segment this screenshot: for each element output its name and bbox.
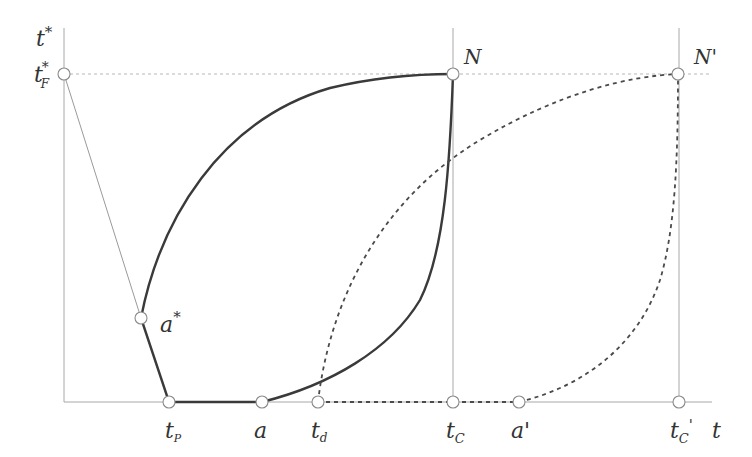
point-a-star (135, 312, 147, 324)
y-axis-label: t* (36, 23, 53, 51)
label-tc-prime: tC' (670, 416, 693, 446)
label-tc: tC (446, 418, 465, 446)
point-n-prime (672, 68, 684, 80)
point-a (256, 396, 268, 408)
label-n-prime: N' (693, 45, 717, 69)
dashed-lower-curve (519, 74, 678, 402)
point-td (312, 396, 324, 408)
x-axis-label: t (712, 418, 721, 443)
solid-lower-curve (262, 74, 453, 402)
label-n: N (463, 45, 483, 69)
label-a-prime: a' (511, 418, 530, 443)
point-tc (447, 396, 459, 408)
point-tf-star (58, 68, 70, 80)
point-tp (163, 396, 175, 408)
label-tf-star: t*F (34, 59, 50, 91)
diagram-canvas: t* t*F N N' a* tP a td tC a' tC' t (0, 0, 752, 457)
point-n (447, 68, 459, 80)
tf-to-astar-line (64, 74, 141, 318)
point-tc-prime (673, 396, 685, 408)
label-a: a (254, 418, 267, 443)
point-a-prime (513, 396, 525, 408)
label-td: td (311, 418, 328, 445)
solid-upper-curve (141, 74, 453, 318)
label-a-star: a* (160, 308, 181, 337)
label-tp: tP (165, 418, 182, 445)
